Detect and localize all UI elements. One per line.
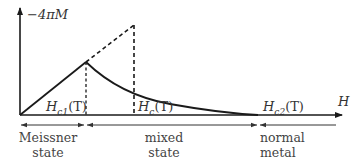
- hc2-label: Hc2(T): [263, 100, 304, 117]
- hc2-symbol: H: [263, 99, 274, 114]
- region-meissner: Meissner state: [18, 130, 78, 157]
- region-meissner-line2: state: [18, 145, 78, 157]
- hc2-arg: (T): [285, 99, 304, 114]
- hc-label: Hc(T): [138, 100, 173, 117]
- type1-dashed-extension: [86, 25, 134, 62]
- hc-symbol: H: [138, 99, 149, 114]
- region-mixed-line2: state: [134, 145, 194, 157]
- hc1-symbol: H: [46, 99, 57, 114]
- region-normal-line1: normal: [260, 130, 310, 145]
- region-meissner-line1: Meissner: [18, 130, 78, 145]
- x-axis-label: H: [338, 95, 349, 108]
- y-axis-label: −4πM: [27, 8, 68, 21]
- hc1-subscript: c1: [57, 107, 68, 117]
- hc1-label: Hc1(T): [46, 100, 87, 117]
- hc-arg: (T): [154, 99, 173, 114]
- region-normal-line2: metal: [260, 145, 310, 157]
- diagram-canvas: −4πM H Hc1(T) Hc(T) Hc2(T) Meissner stat…: [0, 0, 360, 157]
- hc2-subscript: c2: [274, 107, 285, 117]
- region-normal: normal metal: [260, 130, 310, 157]
- region-mixed: mixed state: [134, 130, 194, 157]
- hc1-arg: (T): [68, 99, 87, 114]
- region-mixed-line1: mixed: [134, 130, 194, 145]
